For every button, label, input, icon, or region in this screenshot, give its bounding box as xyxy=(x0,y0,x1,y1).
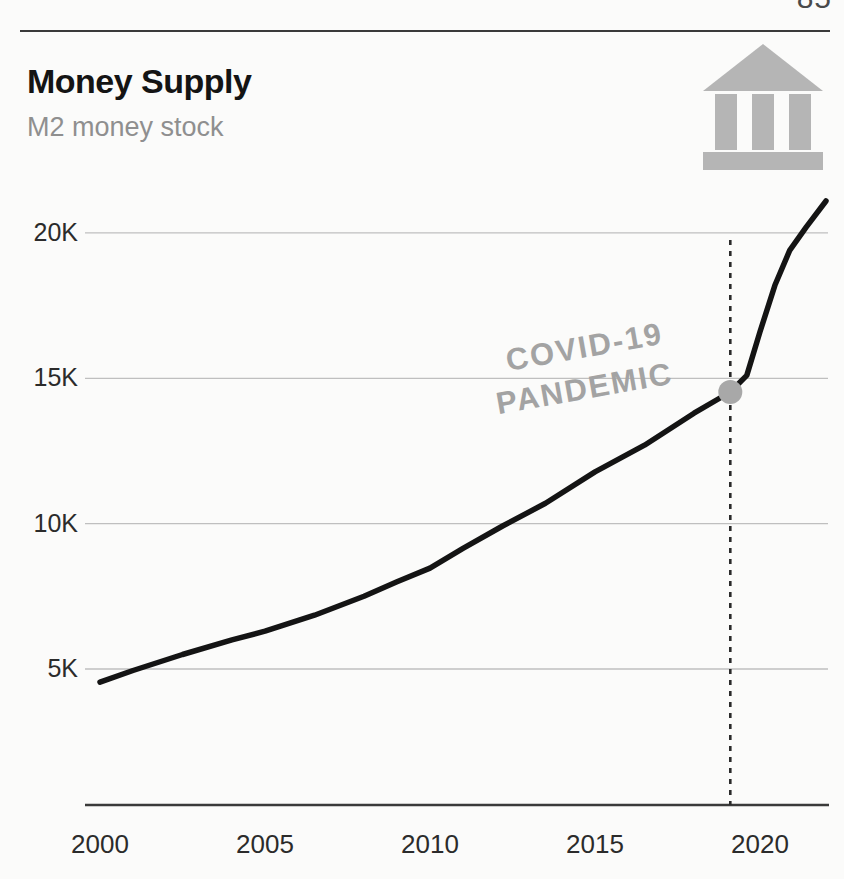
y-tick-15K: 15K xyxy=(34,363,79,391)
m2-series-line xyxy=(100,201,826,682)
y-tick-20K: 20K xyxy=(34,218,79,246)
x-tick-2000: 2000 xyxy=(71,829,129,859)
x-tick-2015: 2015 xyxy=(566,829,624,859)
y-tick-10K: 10K xyxy=(34,509,79,537)
x-tick-2010: 2010 xyxy=(401,829,459,859)
line-chart: 5K10K15K20K20002005201020152020 xyxy=(0,0,844,879)
x-tick-2020: 2020 xyxy=(731,829,789,859)
y-tick-5K: 5K xyxy=(47,654,78,682)
book-page: { "page": { "number": "85" }, "header": … xyxy=(0,0,844,879)
x-tick-2005: 2005 xyxy=(236,829,294,859)
